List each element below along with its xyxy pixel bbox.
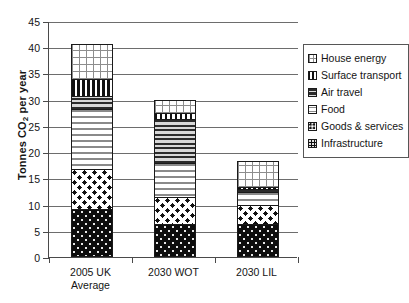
segment-goods-services [72, 170, 112, 210]
segment-food [155, 164, 195, 198]
y-axis-tick [43, 127, 49, 128]
segment-house-energy [155, 101, 195, 114]
y-axis-tick-label: 5 [14, 227, 40, 238]
legend-label: Goods & services [321, 121, 403, 132]
legend-item-infrastructure: Infrastructure [308, 135, 403, 152]
x-axis-label-2: 2030 WOT [126, 266, 222, 279]
gridline [49, 22, 298, 23]
y-axis-tick-label: 30 [14, 95, 40, 106]
y-axis-tick-label: 10 [14, 200, 40, 211]
legend-item-house-energy: House energy [308, 50, 403, 67]
food-swatch-icon [308, 105, 317, 114]
infrastructure-swatch-icon [308, 139, 317, 148]
legend-item-goods-services: Goods & services [308, 118, 403, 135]
x-axis-tick [132, 257, 133, 263]
y-axis-tick [43, 74, 49, 75]
legend-item-surface-transport: Surface transport [308, 67, 403, 84]
segment-air-travel [155, 120, 195, 165]
x-axis-tick [215, 257, 216, 263]
bar-3 [237, 161, 279, 257]
y-axis-tick-label: 35 [14, 69, 40, 80]
y-axis-tick-label: 0 [14, 253, 40, 264]
chart-legend: House energy Surface transport Air trave… [303, 44, 409, 158]
segment-surface-transport [72, 80, 112, 97]
segment-goods-services [238, 206, 278, 224]
segment-house-energy [72, 45, 112, 80]
x-axis-label-line: 2030 LIL [209, 266, 305, 279]
legend-item-food: Food [308, 101, 403, 118]
x-axis-tick [298, 257, 299, 263]
segment-goods-services [155, 198, 195, 224]
legend-label: Infrastructure [321, 138, 383, 149]
y-axis-tick [43, 206, 49, 207]
y-axis-tick [43, 179, 49, 180]
x-axis-label-3: 2030 LIL [209, 266, 305, 279]
y-axis-tick [43, 153, 49, 154]
segment-infrastructure [72, 210, 112, 256]
y-axis-tick-label: 20 [14, 148, 40, 159]
y-axis-tick [43, 48, 49, 49]
x-axis-label-1: 2005 UKAverage [43, 266, 139, 292]
y-axis-tick [43, 232, 49, 233]
x-axis-tick [49, 257, 50, 263]
segment-infrastructure [155, 225, 195, 256]
goods-services-swatch-icon [308, 122, 317, 131]
x-axis-label-line: Average [43, 279, 139, 292]
segment-air-travel [72, 97, 112, 111]
air-travel-swatch-icon [308, 88, 317, 97]
surface-transport-swatch-icon [308, 71, 317, 80]
y-axis-tick-label: 40 [14, 43, 40, 54]
legend-label: Surface transport [321, 70, 402, 81]
segment-food [238, 193, 278, 206]
bar-1 [71, 44, 113, 257]
legend-label: Air travel [321, 87, 362, 98]
x-axis-label-line: 2005 UK [43, 266, 139, 279]
y-axis-tick-label: 45 [14, 17, 40, 28]
y-axis-tick-label: 15 [14, 174, 40, 185]
y-axis-tick [43, 101, 49, 102]
bar-2 [154, 100, 196, 257]
plot-area: 0510152025303540452005 UKAverage2030 WOT… [48, 22, 297, 258]
y-axis-tick [43, 22, 49, 23]
segment-food [72, 110, 112, 170]
legend-item-air-travel: Air travel [308, 84, 403, 101]
y-axis-tick-label: 25 [14, 122, 40, 133]
house-energy-swatch-icon [308, 54, 317, 63]
legend-label: House energy [321, 53, 386, 64]
segment-infrastructure [238, 225, 278, 256]
legend-label: Food [321, 104, 345, 115]
segment-house-energy [238, 162, 278, 188]
stacked-bar-chart: Tonnes CO2 per year 05101520253035404520… [0, 0, 409, 303]
x-axis-label-line: 2030 WOT [126, 266, 222, 279]
